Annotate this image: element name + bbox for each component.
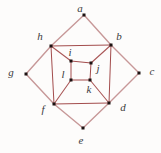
vertex-dot-l xyxy=(70,79,73,82)
edge-i-j xyxy=(71,61,91,63)
vertex-label-b: b xyxy=(116,30,122,42)
edge-a-b xyxy=(84,15,111,45)
vertex-label-g: g xyxy=(8,66,14,78)
edge-j-k xyxy=(90,63,91,80)
graph-diagram: abcdefghijkl xyxy=(0,0,161,153)
edge-f-g xyxy=(26,74,54,104)
vertex-dot-g xyxy=(25,73,28,76)
vertex-label-l: l xyxy=(61,68,64,80)
vertex-dot-f xyxy=(53,103,56,106)
graph-canvas: abcdefghijkl xyxy=(0,0,161,153)
edge-d-f xyxy=(54,103,109,104)
vertex-label-a: a xyxy=(77,2,83,14)
edge-b-c xyxy=(111,45,139,73)
edge-c-d xyxy=(109,73,139,103)
vertex-label-h: h xyxy=(37,30,43,42)
edge-h-b xyxy=(51,45,111,46)
vertex-label-j: j xyxy=(94,62,99,74)
edge-d-k xyxy=(90,80,109,103)
vertex-dot-d xyxy=(108,102,111,105)
edge-b-d xyxy=(109,45,111,103)
vertex-dot-a xyxy=(83,14,86,17)
vertex-dot-b xyxy=(110,44,113,47)
edge-a-h xyxy=(51,15,84,46)
vertex-dot-c xyxy=(138,72,141,75)
edge-f-l xyxy=(54,80,71,104)
edge-e-f xyxy=(54,104,83,128)
vertex-dot-e xyxy=(82,127,85,130)
vertex-dot-j xyxy=(90,62,93,65)
vertex-label-f: f xyxy=(41,103,46,115)
edge-b-j xyxy=(91,45,111,63)
vertex-dot-h xyxy=(50,45,53,48)
vertex-label-i: i xyxy=(68,46,71,58)
vertex-label-e: e xyxy=(79,134,84,146)
vertex-label-c: c xyxy=(150,65,155,77)
edge-g-h xyxy=(26,46,51,74)
vertex-label-d: d xyxy=(120,101,126,113)
edge-f-h xyxy=(51,46,54,104)
vertex-dot-i xyxy=(70,60,73,63)
vertex-label-k: k xyxy=(87,83,93,95)
edge-d-e xyxy=(83,103,109,128)
vertex-dot-k xyxy=(89,79,92,82)
